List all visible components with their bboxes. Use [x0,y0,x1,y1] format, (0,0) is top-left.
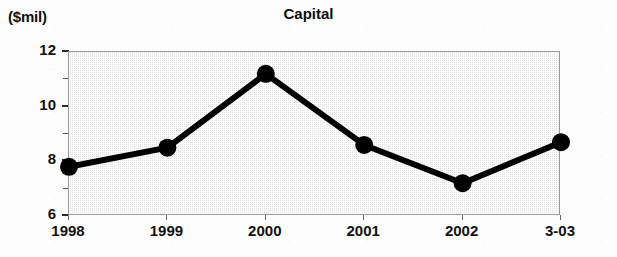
x-axis-tick [265,215,266,220]
x-axis-label: 1999 [121,222,211,239]
x-axis-label: 2001 [318,222,408,239]
y-axis-label: 12 [0,41,56,58]
data-point-marker [552,133,570,151]
chart-title: Capital [0,5,617,22]
x-axis-label: 2002 [417,222,507,239]
x-axis-tick [363,215,364,220]
x-axis-tick [166,215,167,220]
series-line [69,74,561,183]
data-point-marker [454,174,472,192]
data-point-marker [257,65,275,83]
data-point-marker [60,158,78,176]
plot-area [68,51,560,215]
x-axis-tick [68,215,69,220]
chart-figure: ($mil) Capital 121086 199819992000200120… [0,0,617,257]
line-series-svg [69,52,561,216]
y-axis-label: 10 [0,96,56,113]
data-point-marker [158,139,176,157]
data-point-marker [355,136,373,154]
x-axis-tick [560,215,561,220]
y-axis-label: 6 [0,205,56,222]
x-axis-tick [462,215,463,220]
x-axis-label: 1998 [23,222,113,239]
x-axis-label: 3-03 [515,222,605,239]
x-axis-label: 2000 [220,222,310,239]
y-axis-label: 8 [0,150,56,167]
